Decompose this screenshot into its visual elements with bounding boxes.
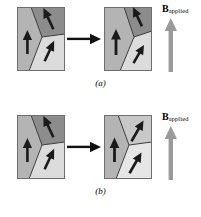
panel-b: Bapplied (b): [0, 108, 201, 213]
panel-a-field-group: Bapplied: [152, 4, 201, 72]
panel-a: Bapplied (a): [0, 0, 201, 105]
field-up-arrow-icon: [164, 126, 178, 180]
panel-b-field-label: Bapplied: [162, 112, 189, 123]
field-symbol: B: [162, 111, 169, 122]
field-subscript: applied: [169, 115, 189, 122]
panel-b-transition-arrow: [67, 141, 101, 153]
panel-a-field-arrow: [164, 18, 178, 72]
panel-a-field-label: Bapplied: [162, 4, 189, 15]
panel-b-grain-box-field-applied: [104, 115, 152, 179]
panel-b-field-arrow: [164, 126, 178, 180]
panel-a-grain-box-field-applied: [104, 7, 152, 71]
panel-a-grain-box-no-field: [17, 7, 65, 71]
field-up-arrow-icon: [164, 18, 178, 72]
panel-a-transition-arrow: [67, 33, 101, 45]
magnetic-domain-figure: Bapplied (a): [0, 0, 201, 217]
panel-b-field-group: Bapplied: [152, 112, 201, 180]
field-symbol: B: [162, 3, 169, 14]
panel-b-grain-box-no-field: [17, 115, 65, 179]
right-arrow-icon: [67, 141, 101, 153]
panel-a-caption: (a): [0, 78, 201, 88]
field-subscript: applied: [169, 7, 189, 14]
panel-b-caption: (b): [0, 186, 201, 196]
right-arrow-icon: [67, 33, 101, 45]
